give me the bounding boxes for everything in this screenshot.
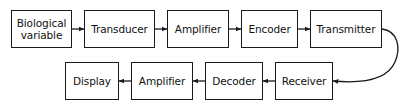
node-transducer[interactable]: Transducer [84, 10, 155, 48]
node-label-decoder: Decoder [210, 75, 257, 88]
node-amplifier-bottom[interactable]: Amplifier [131, 62, 193, 100]
node-label-transmitter: Transmitter [315, 23, 378, 36]
node-biological-variable[interactable]: Biological variable [11, 10, 72, 48]
node-label-display: Display [71, 75, 113, 88]
node-encoder[interactable]: Encoder [241, 10, 298, 48]
node-display[interactable]: Display [65, 62, 119, 100]
node-label-amplifier-bottom: Amplifier [137, 75, 187, 88]
node-decoder[interactable]: Decoder [205, 62, 263, 100]
node-label-receiver: Receiver [280, 75, 329, 88]
node-label-encoder: Encoder [246, 23, 292, 36]
node-label-amplifier-top: Amplifier [173, 23, 223, 36]
node-label-biological-variable: Biological variable [15, 17, 69, 42]
node-transmitter[interactable]: Transmitter [310, 10, 382, 48]
block-diagram: Biological variableTransducerAmplifierEn… [0, 0, 407, 109]
node-receiver[interactable]: Receiver [275, 62, 333, 100]
node-amplifier-top[interactable]: Amplifier [167, 10, 229, 48]
node-label-transducer: Transducer [89, 23, 150, 36]
